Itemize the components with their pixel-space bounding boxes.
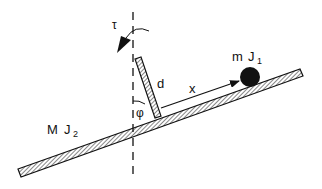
svg-text:J: J: [64, 122, 71, 137]
svg-text:M: M: [47, 122, 58, 137]
ball-position-label: x: [189, 81, 196, 96]
angle-label: φ: [136, 106, 144, 120]
ball-mass-label: m J 1: [232, 49, 262, 66]
torque-label: τ: [112, 18, 117, 32]
svg-text:1: 1: [257, 56, 262, 66]
svg-text:J: J: [248, 49, 255, 64]
arm-length-label: d: [157, 76, 164, 91]
svg-text:2: 2: [73, 129, 78, 139]
beam-mass-label: M J 2: [47, 122, 78, 139]
ball: [240, 67, 260, 87]
ball-beam-diagram: τ d x φ m J 1 M J 2: [0, 0, 322, 189]
svg-text:m: m: [232, 49, 243, 64]
angle-phi-arc: [133, 101, 145, 104]
